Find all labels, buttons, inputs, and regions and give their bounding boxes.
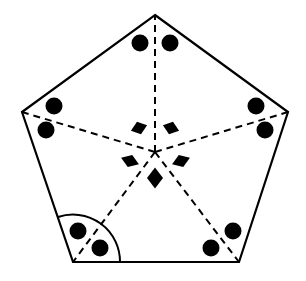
circle-marker-right-lower (257, 122, 274, 139)
circle-marker-left-upper (46, 98, 63, 115)
circle-marker-bottomleft-upper (70, 223, 87, 240)
circle-marker-left-lower (38, 122, 55, 139)
circle-marker-bottomright-lower (203, 240, 220, 257)
circle-marker-bottomright-upper (225, 223, 242, 240)
circle-marker-top-right (162, 35, 179, 52)
circle-marker-right-upper (248, 98, 265, 115)
pentagon-figure-container (0, 0, 306, 281)
circle-marker-bottomleft-lower (92, 240, 109, 257)
pentagon-figure-svg (0, 0, 306, 281)
circle-marker-top-left (132, 35, 149, 52)
